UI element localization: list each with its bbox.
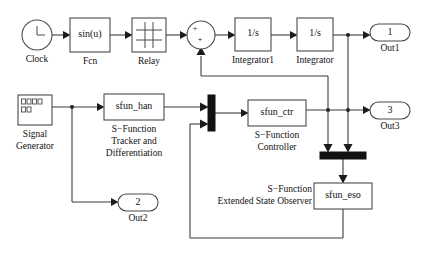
arrowhead-relay-in xyxy=(125,31,133,39)
clock-block[interactable] xyxy=(22,20,52,50)
sfun-ctr-label-line1: S−Function xyxy=(237,130,317,141)
diagram-svg xyxy=(0,0,425,253)
integrator-label: Integrator xyxy=(282,55,348,66)
sfun-han-text: sfun_han xyxy=(104,100,164,111)
arrowhead-mux-h-in-left xyxy=(324,144,333,153)
arrowhead-mux-v-in-bottom xyxy=(200,120,209,129)
block-layer xyxy=(18,18,410,211)
sum-plus-top: + xyxy=(190,24,200,33)
block-diagram-canvas: sin(u) + + 1/s 1/s sfun_han sfun_ctr sfu… xyxy=(0,0,425,253)
sfun-ctr-label-line2: Controller xyxy=(237,142,317,153)
signal-generator-label-line2: Generator xyxy=(5,141,65,152)
mux-horizontal-block[interactable] xyxy=(320,152,366,159)
relay-block[interactable] xyxy=(132,18,166,52)
integrator1-label: Integrator1 xyxy=(218,55,288,66)
clock-label: Clock xyxy=(7,54,67,65)
sfun-eso-label-line1: S−Function xyxy=(212,184,312,195)
signal-generator-block[interactable] xyxy=(18,95,52,125)
signal-generator-label-line1: Signal xyxy=(5,129,65,140)
out1-number: 1 xyxy=(370,26,410,37)
arrowhead-sum-in-left xyxy=(180,31,188,39)
sfun-eso-label-line2: Extended State Observer xyxy=(182,196,312,207)
relay-body[interactable] xyxy=(132,18,166,52)
sfun-han-label-line2: Tracker and xyxy=(94,136,174,147)
arrowhead-mux-h-in-right xyxy=(344,144,353,153)
sfun-ctr-text: sfun_ctr xyxy=(248,106,306,117)
fcn-label: Fcn xyxy=(60,56,120,67)
out2-number: 2 xyxy=(118,196,158,207)
arrowhead-sfuneso-in xyxy=(339,175,348,184)
sfun-han-label-line1: S−Function xyxy=(94,124,174,135)
out2-label: Out2 xyxy=(118,213,158,224)
mux-vertical-block[interactable] xyxy=(208,95,215,131)
out1-label: Out1 xyxy=(370,43,410,54)
out3-number: 3 xyxy=(370,104,410,115)
integrator1-text: 1/s xyxy=(235,27,271,38)
arrowhead-mux-v-in-top xyxy=(200,103,209,112)
relay-label: Relay xyxy=(119,56,179,67)
signal-generator-body[interactable] xyxy=(18,95,52,125)
integrator-text: 1/s xyxy=(297,27,333,38)
out3-label: Out3 xyxy=(370,121,410,132)
fcn-text: sin(u) xyxy=(70,28,110,39)
sfun-eso-text: sfun_eso xyxy=(314,189,372,200)
sum-plus-bottom: + xyxy=(195,35,205,44)
sfun-han-label-line3: Differentiation xyxy=(94,148,174,159)
